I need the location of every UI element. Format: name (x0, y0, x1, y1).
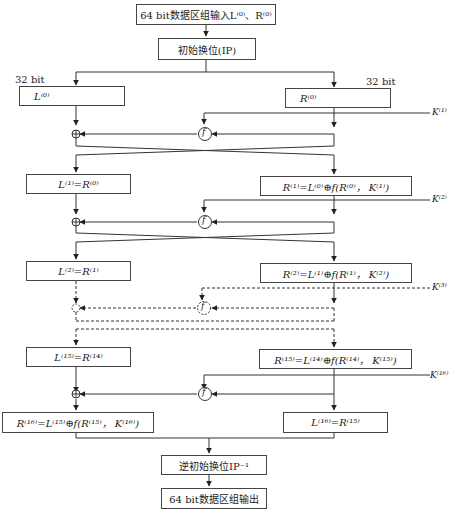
output-block-label: 64 bit数据区组输出 (169, 491, 259, 506)
L15-label: L⁽¹⁵⁾=R⁽¹⁴⁾ (54, 352, 102, 363)
inverse-permutation-box: 逆初始换位IP⁻¹ (161, 455, 267, 475)
R2-label: R⁽²⁾=L⁽¹⁾⊕f(R⁽¹⁾， K⁽²⁾) (283, 266, 389, 281)
key-K2-label: K⁽²⁾ (432, 194, 447, 204)
R0-box: R⁽⁰⁾ (285, 88, 391, 108)
f-function-1: f (202, 127, 205, 137)
R16-box: R⁽¹⁶⁾=L⁽¹⁵⁾⊕f(R⁽¹⁵⁾， K⁽¹⁶⁾) (2, 412, 154, 433)
inverse-permutation-label: 逆初始换位IP⁻¹ (179, 458, 249, 473)
L1-label: L⁽¹⁾=R⁽⁰⁾ (58, 179, 98, 190)
des-feistel-diagram: f f f f 64 bit数据区组输入L⁽⁰⁾、R⁽⁰⁾ 初始换位(IP) 3… (0, 0, 455, 516)
L2-label: L⁽²⁾=R⁽¹⁾ (58, 266, 98, 277)
initial-permutation-label: 初始换位(IP) (178, 42, 236, 57)
bit-width-right-label: 32 bit (366, 76, 396, 87)
L0-label: L⁽⁰⁾ (34, 91, 50, 102)
R15-box: R⁽¹⁵⁾=L⁽¹⁴⁾⊕f(R⁽¹⁴⁾， K⁽¹⁵⁾) (259, 349, 412, 369)
f-function-3: f (201, 301, 204, 311)
R15-label: R⁽¹⁵⁾=L⁽¹⁴⁾⊕f(R⁽¹⁴⁾， K⁽¹⁵⁾) (274, 352, 396, 367)
bit-width-left-label: 32 bit (15, 74, 45, 85)
f-function-2: f (202, 215, 205, 225)
key-K3-label: K⁽³⁾ (432, 282, 447, 292)
R16-label: R⁽¹⁶⁾=L⁽¹⁵⁾⊕f(R⁽¹⁵⁾， K⁽¹⁶⁾) (17, 415, 139, 430)
R2-box: R⁽²⁾=L⁽¹⁾⊕f(R⁽¹⁾， K⁽²⁾) (260, 263, 412, 283)
output-block-box: 64 bit数据区组输出 (161, 488, 267, 509)
input-block-label: 64 bit数据区组输入L⁽⁰⁾、R⁽⁰⁾ (140, 7, 272, 22)
L2-box: L⁽²⁾=R⁽¹⁾ (26, 261, 131, 281)
L1-box: L⁽¹⁾=R⁽⁰⁾ (26, 174, 131, 194)
L15-box: L⁽¹⁵⁾=R⁽¹⁴⁾ (26, 347, 131, 367)
L16-label: L⁽¹⁶⁾=R⁽¹⁵⁾ (311, 417, 359, 428)
key-K1-label: K⁽¹⁾ (432, 107, 447, 117)
f-function-16: f (202, 387, 205, 397)
initial-permutation-box: 初始换位(IP) (158, 38, 256, 60)
R1-label: R⁽¹⁾=L⁽⁰⁾⊕f(R⁽⁰⁾， K⁽¹⁾) (283, 179, 389, 194)
L16-box: L⁽¹⁶⁾=R⁽¹⁵⁾ (283, 412, 388, 433)
input-block-box: 64 bit数据区组输入L⁽⁰⁾、R⁽⁰⁾ (136, 4, 276, 25)
R1-box: R⁽¹⁾=L⁽⁰⁾⊕f(R⁽⁰⁾， K⁽¹⁾) (260, 176, 412, 196)
R0-label: R⁽⁰⁾ (300, 93, 316, 104)
key-K16-label: K⁽¹⁶⁾ (430, 370, 448, 380)
L0-box: L⁽⁰⁾ (19, 86, 125, 106)
